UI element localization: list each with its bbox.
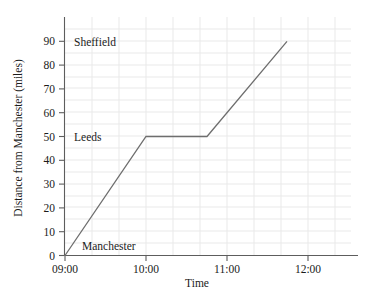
x-axis-ticks	[65, 256, 308, 262]
annotation-sheffield: Sheffield	[74, 36, 116, 48]
chart-svg: 0 10 20 30 40 50 60 70 80 90 09:00 10:00…	[0, 0, 365, 291]
y-tick-label: 0	[49, 250, 55, 262]
x-axis-title: Time	[185, 277, 209, 289]
y-tick-label: 60	[44, 107, 56, 119]
y-axis-tick-labels: 0 10 20 30 40 50 60 70 80 90	[44, 35, 56, 261]
x-tick-label: 09:00	[52, 263, 78, 275]
y-tick-label: 30	[44, 178, 56, 190]
y-tick-label: 20	[44, 202, 56, 214]
y-tick-label: 50	[44, 131, 56, 143]
annotation-manchester: Manchester	[82, 240, 136, 252]
y-tick-label: 80	[44, 59, 56, 71]
y-tick-label: 90	[44, 35, 56, 47]
x-tick-label: 12:00	[295, 263, 321, 275]
distance-time-chart: 0 10 20 30 40 50 60 70 80 90 09:00 10:00…	[0, 0, 365, 291]
x-axis-tick-labels: 09:00 10:00 11:00 12:00	[52, 263, 321, 275]
annotation-leeds: Leeds	[74, 131, 102, 143]
x-tick-label: 11:00	[214, 263, 240, 275]
y-tick-label: 40	[44, 154, 56, 166]
x-tick-label: 10:00	[133, 263, 159, 275]
y-axis-ticks	[59, 41, 65, 255]
y-tick-label: 10	[44, 226, 56, 238]
y-axis-title: Distance from Manchester (miles)	[12, 59, 25, 217]
y-tick-label: 70	[44, 83, 56, 95]
